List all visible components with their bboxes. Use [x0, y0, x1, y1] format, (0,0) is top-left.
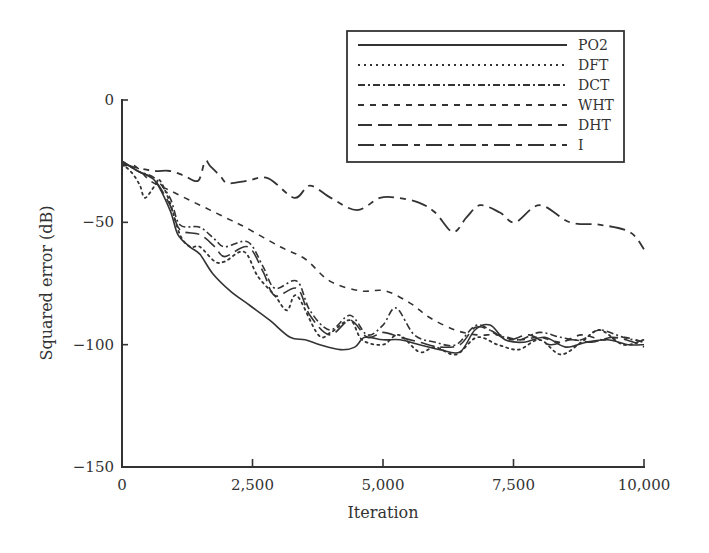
y-axis-title: Squared error (dB) — [37, 205, 56, 360]
x-tick-label: 5,000 — [362, 476, 405, 494]
x-tick-label: 2,500 — [231, 476, 274, 494]
x-tick-label: 7,500 — [492, 476, 535, 494]
legend-label-po2: PO2 — [578, 37, 608, 53]
series-line-i — [122, 161, 644, 250]
x-ticks: 02,5005,0007,50010,000 — [117, 459, 670, 494]
y-tick-label: 0 — [104, 91, 114, 109]
legend-label-wht: WHT — [578, 97, 615, 113]
y-tick-label: −100 — [73, 336, 114, 354]
x-tick-label: 10,000 — [618, 476, 671, 494]
y-tick-label: −50 — [82, 213, 114, 231]
legend-label-i: I — [578, 137, 584, 153]
y-tick-label: −150 — [73, 458, 114, 476]
plot-series-group — [122, 161, 644, 355]
y-ticks: 0−50−100−150 — [73, 91, 128, 476]
x-axis-title: Iteration — [348, 503, 419, 522]
legend-label-dft: DFT — [578, 57, 609, 73]
x-tick-label: 0 — [117, 476, 127, 494]
legend-label-dht: DHT — [578, 117, 611, 133]
legend: PO2DFTDCTWHTDHTI — [347, 31, 624, 162]
legend-label-dct: DCT — [578, 77, 610, 93]
line-chart: 0−50−100−150 02,5005,0007,50010,000 Iter… — [0, 0, 709, 553]
